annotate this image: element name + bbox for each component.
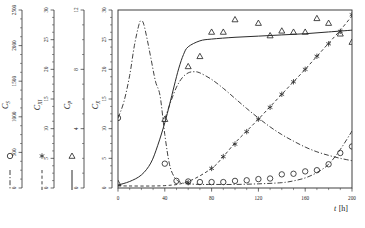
datapoint-triangle: [314, 15, 320, 20]
tick-label-cp: 0: [73, 186, 79, 189]
tick-label-cx: 15: [101, 96, 107, 102]
x-axis-label: t[h]: [334, 204, 348, 213]
tick-label-cs: 1000: [11, 111, 17, 122]
datapoint-circle: [209, 179, 214, 184]
datapoint-triangle: [279, 28, 285, 33]
multi-axis-kinetics-chart: 05001000150020002500CS051015202530CXI048…: [0, 0, 365, 228]
datapoint-circle: [291, 171, 296, 176]
curve-C_XI: [118, 16, 352, 186]
tick-label-cxi: 15: [43, 96, 49, 102]
series-c-x: [165, 72, 352, 161]
tick-label-cx: 30: [101, 7, 107, 13]
axis-symbol-cxi: CXI: [33, 100, 43, 111]
tick-label-cs: 1500: [11, 76, 17, 87]
legend-entry-cs: [7, 153, 12, 190]
legend-marker-triangle: [69, 153, 75, 158]
plot-frame: [118, 10, 352, 188]
datapoint-circle: [221, 179, 226, 184]
datapoint-triangle: [220, 29, 226, 34]
datapoint-circle: [197, 179, 202, 184]
axis-title-cx: CX: [91, 100, 101, 109]
tick-label-cx: 20: [101, 66, 107, 72]
tick-label-cs: 2000: [11, 40, 17, 51]
x-tick-label: 0: [117, 195, 120, 201]
x-tick-label: 160: [301, 195, 309, 201]
datapoint-triangle: [255, 20, 261, 25]
datapoint-triangle: [209, 29, 215, 34]
legend-entry-cp: [69, 153, 75, 190]
datapoint-triangle: [326, 20, 332, 25]
datapoint-circle: [244, 178, 249, 183]
axis-title-cs: CS: [1, 101, 11, 109]
x-tick-label: 120: [255, 195, 263, 201]
tick-label-cp: 12: [73, 7, 79, 13]
datapoint-circle: [267, 176, 272, 181]
datapoint-triangle: [232, 16, 238, 21]
x-tick-label: 200: [348, 195, 356, 201]
datapoint-triangle: [197, 53, 203, 58]
datapoint-triangle: [291, 29, 297, 34]
axis-cs: 05001000150020002500CS: [1, 4, 22, 189]
datapoint-circle: [256, 176, 261, 181]
tick-label-cxi: 20: [43, 66, 49, 72]
tick-label-cxi: 25: [43, 37, 49, 43]
tick-label-cxi: 30: [43, 7, 49, 13]
datapoint-circle: [303, 169, 308, 174]
series-c-p: [115, 15, 355, 185]
tick-label-cx: 0: [101, 186, 107, 189]
axis-cp: 04812CP: [63, 7, 84, 189]
tick-label-cp: 4: [73, 127, 79, 130]
tick-label-cx: 10: [101, 126, 107, 132]
datapoint-circle: [338, 150, 343, 155]
tick-label-cxi: 0: [43, 186, 49, 189]
x-axis: 04080120160200t[h]: [117, 188, 357, 213]
axis-symbol-cx: CX: [91, 100, 101, 109]
axis-title-cp: CP: [63, 100, 73, 109]
axis-symbol-cs: CS: [1, 101, 11, 109]
datapoint-circle: [232, 178, 237, 183]
datapoint-circle: [162, 161, 167, 166]
tick-label-cp: 8: [73, 68, 79, 71]
figure-root: 05001000150020002500CS051015202530CXI048…: [0, 0, 365, 228]
axis-cxi: 051015202530CXI: [33, 7, 54, 189]
tick-label-cs: 2500: [11, 4, 17, 15]
x-tick-label: 80: [209, 195, 215, 201]
tick-label-cs: 0: [11, 186, 17, 189]
datapoint-triangle: [185, 63, 191, 68]
x-tick-label: 40: [162, 195, 168, 201]
axis-symbol-cp: CP: [63, 100, 73, 109]
series-c-s: [115, 21, 354, 185]
axis-cx: 051015202530CX: [91, 7, 112, 189]
tick-label-cx: 5: [101, 157, 107, 160]
curve-C_S: [118, 21, 352, 185]
tick-label-cx: 25: [101, 37, 107, 43]
axis-title-cxi: CXI: [33, 100, 43, 111]
curve-C_X: [165, 72, 352, 161]
curve-C_P: [118, 30, 352, 185]
tick-label-cxi: 10: [43, 126, 49, 132]
datapoint-circle: [279, 172, 284, 177]
tick-label-cs: 500: [11, 148, 17, 156]
